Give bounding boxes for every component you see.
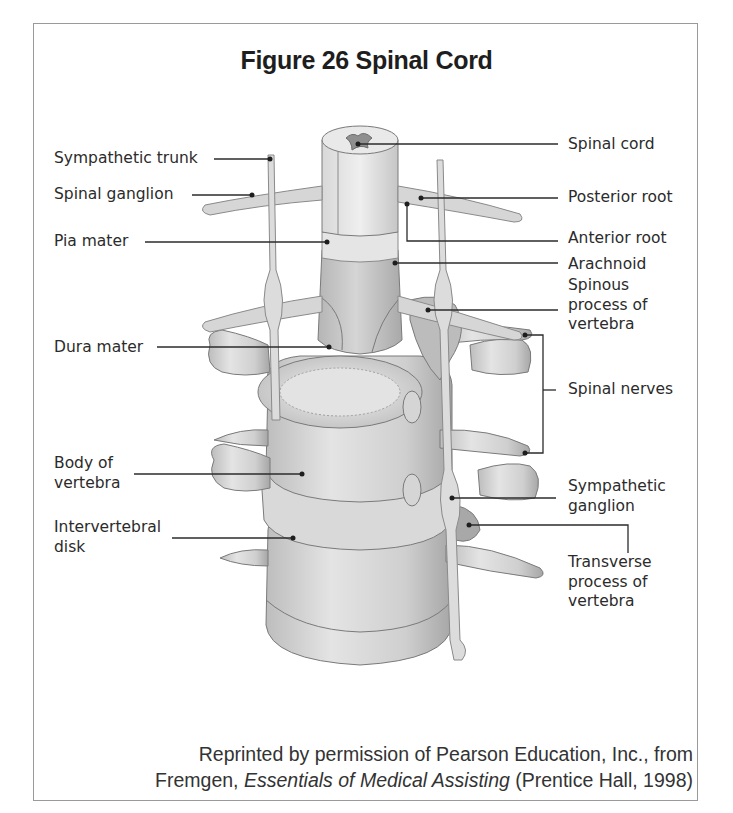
label-arachnoid: Arachnoid [568, 255, 646, 275]
spinal-cord-illustration [0, 0, 733, 813]
label-posterior-root: Posterior root [568, 188, 673, 208]
credit-line-1: Reprinted by permission of Pearson Educa… [155, 741, 693, 767]
figure-credit: Reprinted by permission of Pearson Educa… [155, 741, 693, 793]
label-anterior-root: Anterior root [568, 229, 667, 249]
label-pia-mater: Pia mater [54, 232, 128, 252]
label-spinous-process: Spinous process of vertebra [568, 276, 647, 335]
label-body-of-vertebra: Body of vertebra [54, 454, 120, 493]
label-dura-mater: Dura mater [54, 338, 143, 358]
label-sympathetic-trunk: Sympathetic trunk [54, 149, 198, 169]
credit-book-title: Essentials of Medical Assisting [244, 769, 510, 791]
label-intervertebral-disk: Intervertebral disk [54, 518, 161, 557]
label-sympathetic-ganglion: Sympathetic ganglion [568, 477, 666, 516]
credit-author: Fremgen, [155, 769, 244, 791]
label-spinal-nerves: Spinal nerves [568, 380, 673, 400]
label-transverse-process: Transverse process of vertebra [568, 553, 652, 612]
credit-publisher: (Prentice Hall, 1998) [510, 769, 693, 791]
label-spinal-cord: Spinal cord [568, 135, 654, 155]
credit-line-2: Fremgen, Essentials of Medical Assisting… [155, 767, 693, 793]
label-spinal-ganglion: Spinal ganglion [54, 185, 173, 205]
